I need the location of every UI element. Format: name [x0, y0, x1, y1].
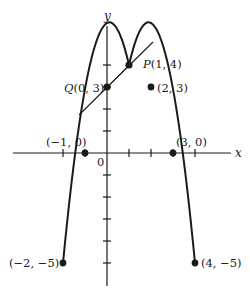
label-neg1-0: (−1, 0) — [46, 135, 87, 149]
point-2-3 — [148, 84, 155, 91]
parabola-graph: y x 0 P(1, 4) Q(0, 3) (2, 3) (−1, 0) (3,… — [0, 0, 250, 293]
label-2-3: (2, 3) — [157, 81, 188, 95]
origin-label: 0 — [97, 155, 104, 169]
label-neg2-neg5: (−2, −5) — [9, 256, 59, 270]
point-neg2-neg5 — [60, 260, 67, 267]
label-P: P(1, 4) — [142, 57, 182, 71]
point-3-0 — [170, 150, 177, 157]
point-4-neg5 — [192, 260, 199, 267]
label-4-neg5: (4, −5) — [201, 256, 242, 270]
label-3-0: (3, 0) — [176, 135, 207, 149]
y-axis-label: y — [103, 9, 111, 23]
point-Q — [103, 83, 110, 90]
x-axis-label: x — [235, 146, 242, 160]
secant-line-QP — [107, 65, 129, 87]
label-Q: Q(0, 3) — [64, 81, 104, 95]
point-neg1-0 — [82, 150, 89, 157]
point-P — [125, 61, 132, 68]
